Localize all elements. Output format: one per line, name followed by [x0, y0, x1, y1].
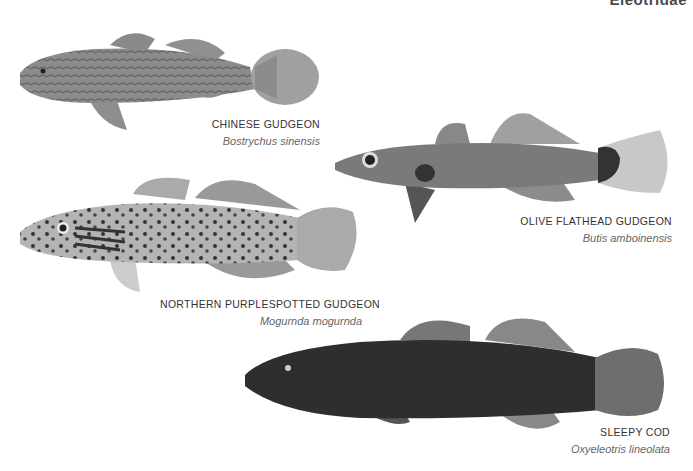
- caption-olive-flathead-gudgeon: Olive Flathead Gudgeon Butis amboinensis: [480, 213, 672, 247]
- scientific-name: Bostrychus sinensis: [200, 133, 320, 150]
- caption-chinese-gudgeon: Chinese Gudgeon Bostrychus sinensis: [200, 116, 320, 150]
- scientific-name: Oxyeleotris lineolata: [520, 441, 670, 458]
- common-name: Olive Flathead Gudgeon: [480, 213, 672, 230]
- sleepy-cod-illustration: [240, 310, 670, 440]
- northern-purplespotted-gudgeon-illustration: [15, 170, 365, 295]
- common-name: Chinese Gudgeon: [200, 116, 320, 133]
- olive-flathead-gudgeon-illustration: [330, 108, 670, 228]
- caption-sleepy-cod: Sleepy Cod Oxyeleotris lineolata: [520, 424, 670, 458]
- common-name: Sleepy Cod: [520, 424, 670, 441]
- scientific-name: Butis amboinensis: [480, 230, 672, 247]
- family-header: Eleotridae: [609, 0, 687, 8]
